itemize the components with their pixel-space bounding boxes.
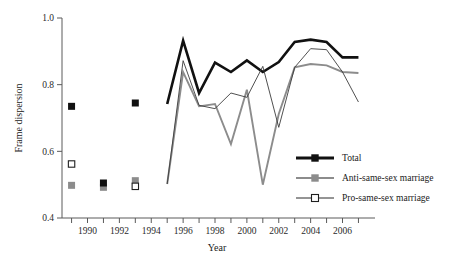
x-axis-tick-label: 2004 [301, 226, 320, 236]
legend-marker-2 [312, 195, 319, 202]
x-axis-tick-label: 2000 [237, 226, 256, 236]
x-axis-title: Year [208, 242, 227, 253]
y-axis-tick-label: 0.4 [42, 213, 54, 223]
legend-marker-0 [311, 154, 318, 161]
frame-dispersion-line-chart: 0.40.60.81.01990199219941996199820002002… [0, 0, 450, 272]
chart-figure: 0.40.60.81.01990199219941996199820002002… [0, 0, 450, 272]
marker-total-1989 [68, 103, 75, 110]
series-line-pro [167, 49, 358, 184]
x-axis-tick-label: 1996 [174, 226, 193, 236]
series-markers [68, 100, 139, 191]
marker-total-1993 [132, 100, 139, 107]
marker-pro-1989 [68, 161, 74, 167]
axis-tick-labels: 0.40.60.81.01990199219941996199820002002… [42, 13, 352, 236]
series-lines [167, 40, 358, 185]
y-axis-tick-label: 0.6 [42, 147, 54, 157]
x-axis-tick-label: 1992 [110, 226, 129, 236]
x-axis-tick-label: 2002 [269, 226, 288, 236]
legend-label-0: Total [342, 153, 362, 163]
chart-legend: TotalAnti-same-sex marriagePro-same-sex … [296, 153, 434, 203]
x-axis-tick-label: 1990 [78, 226, 97, 236]
x-axis-tick-label: 2006 [333, 226, 352, 236]
marker-pro-1993 [132, 183, 138, 189]
legend-marker-1 [311, 174, 318, 181]
y-axis-title: Frame dispersion [13, 83, 24, 152]
legend-label-2: Pro-same-sex marriage [342, 193, 430, 203]
y-axis-tick-label: 1.0 [42, 13, 54, 23]
x-axis-tick-label: 1998 [206, 226, 225, 236]
marker-anti-1989 [68, 182, 75, 189]
axes [57, 18, 375, 223]
marker-total-1991 [100, 180, 107, 187]
y-axis-tick-label: 0.8 [42, 80, 54, 90]
legend-label-1: Anti-same-sex marriage [342, 173, 434, 183]
x-axis-tick-label: 1994 [142, 226, 161, 236]
series-line-total [167, 40, 358, 104]
